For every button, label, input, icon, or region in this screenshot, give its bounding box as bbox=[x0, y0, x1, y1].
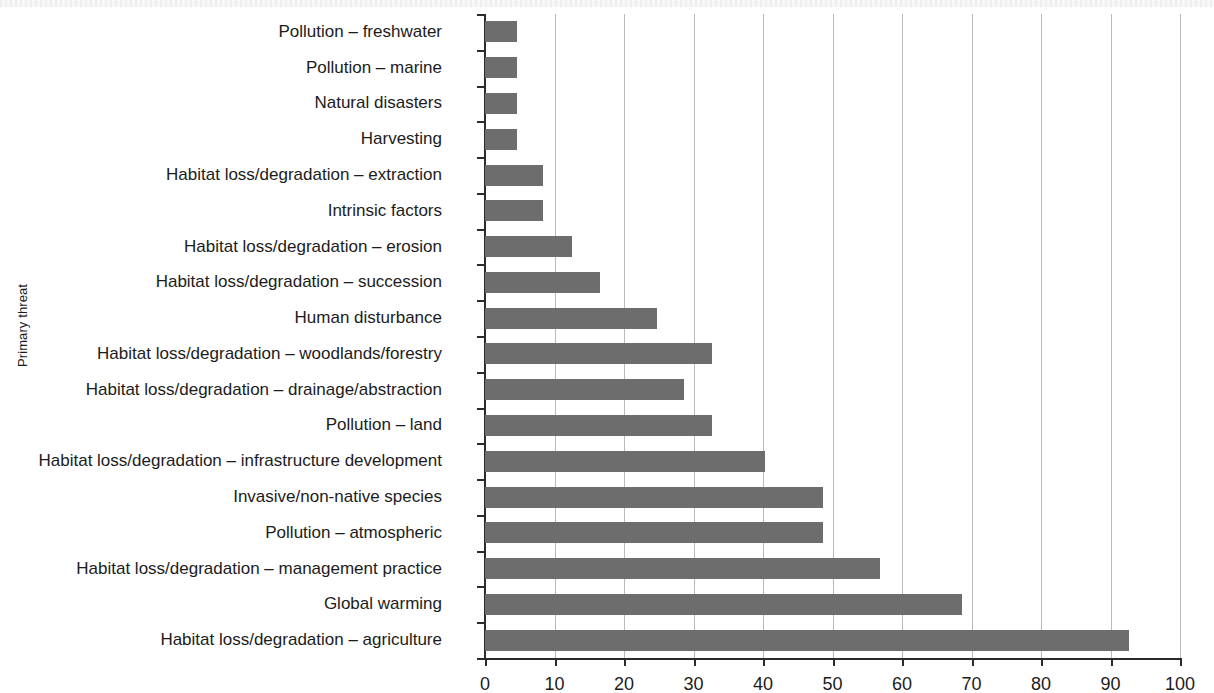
y-axis-tick bbox=[477, 157, 485, 159]
y-axis-tick bbox=[477, 515, 485, 517]
y-axis-tick bbox=[477, 443, 485, 445]
bar bbox=[485, 343, 712, 364]
y-axis-category-label: Habitat loss/degradation – agriculture bbox=[160, 630, 442, 650]
y-axis-category-label: Habitat loss/degradation – infrastructur… bbox=[38, 451, 442, 471]
x-axis-tick-label: 20 bbox=[594, 674, 654, 693]
bar bbox=[485, 487, 823, 508]
y-axis-category-label: Habitat loss/degradation – drainage/abst… bbox=[86, 380, 442, 400]
bar bbox=[485, 236, 572, 257]
gridline bbox=[1180, 14, 1181, 658]
bar bbox=[485, 272, 600, 293]
bar bbox=[485, 379, 684, 400]
x-axis-tick bbox=[624, 658, 626, 666]
x-axis-tick bbox=[555, 658, 557, 666]
x-axis-tick bbox=[485, 658, 487, 666]
y-axis-tick bbox=[477, 300, 485, 302]
x-axis-tick-label: 30 bbox=[664, 674, 724, 693]
y-axis-category-label: Human disturbance bbox=[295, 308, 442, 328]
bar bbox=[485, 93, 517, 114]
y-axis-category-label: Pollution – atmospheric bbox=[265, 523, 442, 543]
bar bbox=[485, 57, 517, 78]
x-axis-tick bbox=[1041, 658, 1043, 666]
y-axis-tick bbox=[477, 86, 485, 88]
x-axis-tick bbox=[1180, 658, 1182, 666]
gridline bbox=[902, 14, 903, 658]
y-axis-tick bbox=[477, 193, 485, 195]
x-axis-tick-label: 50 bbox=[803, 674, 863, 693]
y-axis-title: Primary threat bbox=[15, 266, 30, 386]
y-axis-tick bbox=[477, 372, 485, 374]
bar-chart-figure: Primary threat 0102030405060708090100Pol… bbox=[0, 0, 1214, 693]
bar bbox=[485, 594, 962, 615]
x-axis-tick bbox=[763, 658, 765, 666]
y-axis-tick bbox=[477, 229, 485, 231]
y-axis-tick bbox=[477, 50, 485, 52]
bar bbox=[485, 165, 543, 186]
x-axis-tick-label: 0 bbox=[455, 674, 515, 693]
bar bbox=[485, 200, 543, 221]
bar bbox=[485, 558, 880, 579]
y-axis-category-label: Harvesting bbox=[361, 129, 442, 149]
y-axis-tick bbox=[477, 408, 485, 410]
x-axis-tick bbox=[972, 658, 974, 666]
y-axis-category-label: Global warming bbox=[324, 594, 442, 614]
y-axis-category-label: Intrinsic factors bbox=[328, 201, 442, 221]
y-axis-tick bbox=[477, 264, 485, 266]
x-axis-tick-label: 60 bbox=[872, 674, 932, 693]
y-axis-category-label: Invasive/non-native species bbox=[233, 487, 442, 507]
x-axis-line bbox=[478, 658, 1180, 660]
plot-area: 0102030405060708090100Pollution – freshw… bbox=[485, 14, 1180, 658]
y-axis-category-label: Natural disasters bbox=[314, 93, 442, 113]
gridline bbox=[1041, 14, 1042, 658]
x-axis-tick-label: 70 bbox=[942, 674, 1002, 693]
bar bbox=[485, 21, 517, 42]
bar bbox=[485, 522, 823, 543]
x-axis-tick-label: 90 bbox=[1081, 674, 1141, 693]
x-axis-tick bbox=[902, 658, 904, 666]
y-axis-tick bbox=[477, 586, 485, 588]
x-axis-tick-label: 10 bbox=[525, 674, 585, 693]
y-axis-category-label: Pollution – marine bbox=[306, 58, 442, 78]
bar bbox=[485, 630, 1129, 651]
y-axis-tick bbox=[477, 336, 485, 338]
bar bbox=[485, 415, 712, 436]
x-axis-tick bbox=[694, 658, 696, 666]
gridline bbox=[972, 14, 973, 658]
y-axis-category-label: Habitat loss/degradation – management pr… bbox=[76, 559, 442, 579]
y-axis-category-label: Pollution – freshwater bbox=[279, 22, 442, 42]
scan-artifact-band bbox=[0, 0, 1214, 7]
bar bbox=[485, 451, 765, 472]
bar bbox=[485, 129, 517, 150]
y-axis-category-label: Habitat loss/degradation – extraction bbox=[166, 165, 442, 185]
y-axis-tick bbox=[477, 551, 485, 553]
y-axis-tick bbox=[477, 14, 485, 16]
x-axis-tick-label: 80 bbox=[1011, 674, 1071, 693]
x-axis-tick bbox=[1111, 658, 1113, 666]
x-axis-tick bbox=[833, 658, 835, 666]
bar bbox=[485, 308, 657, 329]
y-axis-category-label: Habitat loss/degradation – woodlands/for… bbox=[97, 344, 442, 364]
y-axis-tick bbox=[477, 622, 485, 624]
gridline bbox=[1111, 14, 1112, 658]
y-axis-category-label: Habitat loss/degradation – erosion bbox=[184, 237, 442, 257]
y-axis-tick bbox=[477, 121, 485, 123]
y-axis-tick bbox=[477, 658, 485, 660]
y-axis-category-label: Pollution – land bbox=[326, 415, 442, 435]
y-axis-category-label: Habitat loss/degradation – succession bbox=[156, 272, 442, 292]
y-axis-tick bbox=[477, 479, 485, 481]
x-axis-tick-label: 100 bbox=[1150, 674, 1210, 693]
x-axis-tick-label: 40 bbox=[733, 674, 793, 693]
